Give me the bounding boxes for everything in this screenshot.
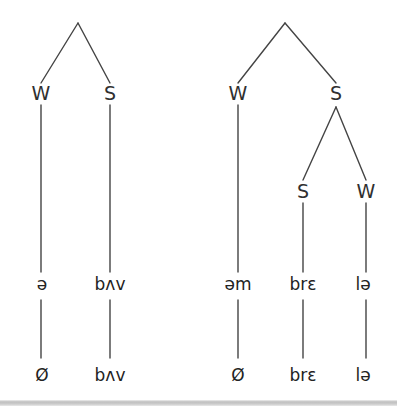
left-tree-node-s: S — [104, 84, 116, 103]
right-s-branch-to-sub-s — [303, 107, 336, 180]
right-tree-subnode-s: S — [297, 182, 309, 201]
right-tree-tier3-sub-w: lə — [355, 367, 370, 384]
right-s-branch-to-sub-w — [336, 107, 366, 180]
right-tree-tier2-w: əm — [224, 276, 251, 293]
page-footer-rule — [0, 400, 397, 406]
tree-lines-layer — [0, 0, 397, 417]
left-tree-tier3-s: bʌv — [95, 367, 126, 384]
right-tree-subnode-w: W — [357, 182, 376, 201]
left-tree-tier2-w: ə — [37, 276, 47, 293]
metrical-tree-figure: W S ə bʌv Ø bʌv W S S W əm brɛ lə Ø brɛ … — [0, 0, 397, 417]
right-tree-node-s: S — [330, 84, 342, 103]
right-tree-tier2-sub-s: brɛ — [290, 276, 317, 293]
right-tree-tier3-sub-s: brɛ — [290, 367, 317, 384]
left-tree-branch-to-s — [78, 23, 110, 83]
right-tree-tier3-w: Ø — [231, 367, 244, 384]
right-tree-node-w: W — [229, 84, 248, 103]
left-tree-node-w: W — [32, 84, 51, 103]
left-tree-tier3-w: Ø — [35, 367, 48, 384]
right-tree-branch-to-w — [238, 23, 285, 83]
right-tree-tier2-sub-w: lə — [355, 276, 370, 293]
left-tree-branch-to-w — [41, 23, 78, 83]
left-tree-tier2-s: bʌv — [95, 276, 126, 293]
right-tree-branch-to-s — [285, 23, 336, 83]
